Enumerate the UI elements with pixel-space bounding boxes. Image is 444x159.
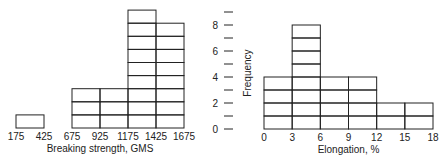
x-axis-label: Breaking strength, GMS bbox=[47, 143, 154, 154]
histogram-bar-cell bbox=[292, 103, 320, 116]
histogram-bar-cell bbox=[377, 103, 405, 116]
x-tick-label: 1175 bbox=[117, 131, 139, 142]
y-tick-label: 4 bbox=[212, 72, 218, 83]
x-tick-label: 175 bbox=[8, 131, 25, 142]
histogram-bar-cell bbox=[156, 102, 184, 115]
histogram-bar-cell bbox=[156, 49, 184, 62]
x-axis-label: Elongation, % bbox=[318, 144, 380, 155]
histogram-bar-cell bbox=[349, 116, 377, 129]
histogram-bar-cell bbox=[128, 10, 156, 23]
histogram-bar-cell bbox=[72, 115, 100, 128]
histogram-bar-cell bbox=[128, 102, 156, 115]
histogram-bar-cell bbox=[320, 116, 348, 129]
histogram-bar-cell bbox=[72, 102, 100, 115]
histogram-bar-cell bbox=[100, 102, 128, 115]
x-tick-label: 0 bbox=[261, 132, 267, 143]
histogram-bar-cell bbox=[320, 90, 348, 103]
histogram-bar-cell bbox=[156, 63, 184, 76]
histogram-bar-cell bbox=[292, 77, 320, 90]
histogram-bar-cell bbox=[405, 116, 433, 129]
histogram-bar-cell bbox=[292, 25, 320, 38]
histogram-bar-cell bbox=[100, 89, 128, 102]
x-tick-label: 1675 bbox=[173, 131, 196, 142]
histogram-bar-cell bbox=[128, 23, 156, 36]
histogram-bar-cell bbox=[72, 89, 100, 102]
x-tick-label: 425 bbox=[36, 131, 53, 142]
histogram-bar-cell bbox=[128, 36, 156, 49]
histogram-bar-cell bbox=[377, 116, 405, 129]
histogram-bar-cell bbox=[292, 38, 320, 51]
histogram-bar-cell bbox=[292, 64, 320, 77]
y-tick-label: 0 bbox=[212, 124, 218, 135]
x-tick-label: 9 bbox=[346, 132, 352, 143]
elongation-histogram: 0369121518Elongation, %02468Frequency bbox=[212, 12, 439, 155]
histogram-bar-cell bbox=[264, 77, 292, 90]
histogram-bar-cell bbox=[128, 89, 156, 102]
x-tick-label: 3 bbox=[289, 132, 295, 143]
histogram-bar-cell bbox=[128, 49, 156, 62]
histogram-bar-cell bbox=[292, 51, 320, 64]
histogram-bar-cell bbox=[264, 116, 292, 129]
histogram-bar-cell bbox=[156, 115, 184, 128]
histogram-bar-cell bbox=[292, 90, 320, 103]
y-tick-label: 2 bbox=[212, 98, 218, 109]
y-tick-label: 6 bbox=[212, 46, 218, 57]
histogram-bar-cell bbox=[100, 115, 128, 128]
histogram-bar-cell bbox=[320, 77, 348, 90]
y-tick-label: 8 bbox=[212, 20, 218, 31]
histogram-bar-cell bbox=[264, 103, 292, 116]
x-tick-label: 15 bbox=[399, 132, 411, 143]
histogram-bar-cell bbox=[156, 89, 184, 102]
x-tick-label: 1425 bbox=[145, 131, 168, 142]
breaking-strength-histogram: 175425675925117514251675Breaking strengt… bbox=[8, 10, 196, 154]
histogram-bar-cell bbox=[156, 23, 184, 36]
x-tick-label: 12 bbox=[371, 132, 383, 143]
histogram-bar-cell bbox=[405, 103, 433, 116]
histogram-bar-cell bbox=[349, 103, 377, 116]
x-tick-label: 6 bbox=[318, 132, 324, 143]
histogram-bar-cell bbox=[349, 90, 377, 103]
histogram-bar-cell bbox=[292, 116, 320, 129]
histogram-figure: 175425675925117514251675Breaking strengt… bbox=[0, 0, 444, 159]
histogram-bar-cell bbox=[156, 36, 184, 49]
histogram-bar-cell bbox=[16, 115, 44, 128]
x-tick-label: 18 bbox=[427, 132, 439, 143]
histogram-bar-cell bbox=[156, 76, 184, 89]
x-tick-label: 925 bbox=[92, 131, 109, 142]
y-axis-label: Frequency bbox=[242, 49, 253, 96]
histogram-bar-cell bbox=[320, 103, 348, 116]
histogram-bar-cell bbox=[264, 90, 292, 103]
histogram-bar-cell bbox=[349, 77, 377, 90]
histogram-bar-cell bbox=[128, 115, 156, 128]
histogram-bar-cell bbox=[128, 63, 156, 76]
histogram-bar-cell bbox=[128, 76, 156, 89]
x-tick-label: 675 bbox=[64, 131, 81, 142]
